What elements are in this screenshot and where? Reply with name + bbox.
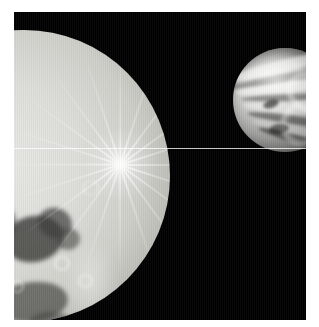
- space-image-plate: [14, 12, 306, 320]
- bright-highlight: [255, 66, 299, 96]
- small-background-body: [233, 48, 306, 152]
- large-foreground-moon: [14, 30, 170, 320]
- image-viewer: A large bright cratered icy moon fills t…: [0, 0, 319, 327]
- bright-terrain-sweep: [14, 180, 18, 220]
